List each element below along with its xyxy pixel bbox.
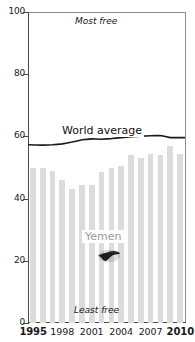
world-average-line xyxy=(28,12,185,323)
y-tick-label-80: 80 xyxy=(14,68,25,78)
y-tick-label-60: 60 xyxy=(14,130,25,140)
y-tick-label-100: 100 xyxy=(8,6,25,16)
world-average-line-layer xyxy=(28,12,185,323)
least-free-annotation: Least free xyxy=(74,305,119,315)
yemen-label: Yemen xyxy=(82,230,124,243)
x-tick-label-2007: 2007 xyxy=(139,326,163,337)
world-average-label: World average xyxy=(60,124,144,137)
x-tick-label-2010: 2010 xyxy=(167,326,194,337)
y-tick-label-40: 40 xyxy=(14,193,25,203)
most-free-annotation: Most free xyxy=(75,16,117,26)
x-tick-label-1995: 1995 xyxy=(19,326,46,337)
x-tick-label-2001: 2001 xyxy=(80,326,104,337)
y-tick-label-20: 20 xyxy=(14,255,25,265)
yemen-map-marker-icon xyxy=(97,248,123,264)
x-tick-label-2004: 2004 xyxy=(109,326,133,337)
x-tick-label-1998: 1998 xyxy=(50,326,74,337)
freedom-index-chart: 020406080100 199519982001200420072010 Mo… xyxy=(0,0,195,342)
plot-frame-right xyxy=(185,12,186,323)
